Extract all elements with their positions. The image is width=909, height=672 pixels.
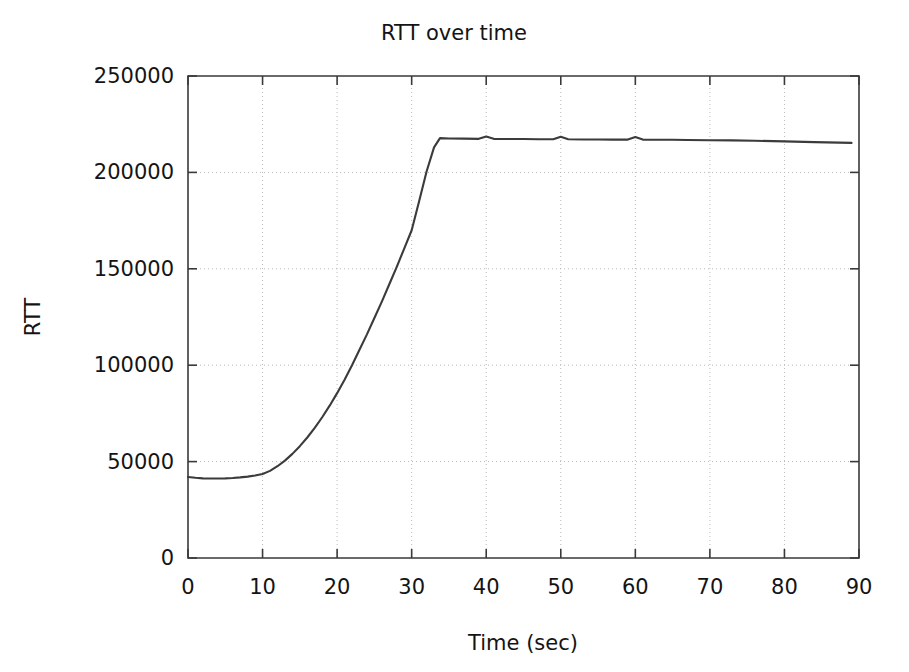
x-axis-label: Time (sec) xyxy=(467,631,578,655)
chart-title: RTT over time xyxy=(381,21,527,45)
x-tick-label: 50 xyxy=(547,575,574,599)
chart-figure: RTT over time 01020304050607080900500001… xyxy=(0,0,909,672)
y-tick-label: 100000 xyxy=(94,353,174,377)
y-tick-label: 200000 xyxy=(94,160,174,184)
y-tick-label: 250000 xyxy=(94,64,174,88)
x-tick-label: 0 xyxy=(181,575,194,599)
y-tick-label: 0 xyxy=(161,546,174,570)
x-tick-label: 60 xyxy=(622,575,649,599)
x-tick-label: 40 xyxy=(473,575,500,599)
x-tick-label: 90 xyxy=(846,575,873,599)
y-axis-label: RTT xyxy=(21,298,45,337)
y-tick-label: 150000 xyxy=(94,257,174,281)
y-tick-label: 50000 xyxy=(107,450,174,474)
figure-background xyxy=(0,0,909,672)
x-tick-label: 30 xyxy=(398,575,425,599)
chart-canvas: RTT over time 01020304050607080900500001… xyxy=(0,0,909,672)
x-tick-label: 20 xyxy=(324,575,351,599)
x-tick-label: 70 xyxy=(697,575,724,599)
x-tick-label: 80 xyxy=(771,575,798,599)
x-tick-label: 10 xyxy=(249,575,276,599)
